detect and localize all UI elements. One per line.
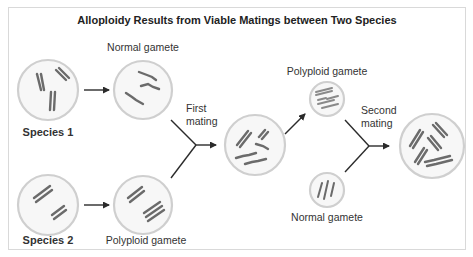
normal-gamete-cell-bottom — [310, 173, 344, 207]
arrow-icon — [285, 114, 305, 134]
polyploid-gamete-label-top: Polyploid gamete — [287, 65, 368, 77]
species-2-cell — [18, 175, 78, 235]
normal-gamete-label-top: Normal gamete — [107, 41, 179, 53]
alloploid-cell — [400, 114, 464, 178]
first-mating-label-line1: First — [186, 102, 206, 114]
normal-gamete-cell-top — [114, 61, 172, 119]
alloploidy-diagram: Alloploidy Results from Viable Matings b… — [0, 0, 473, 257]
normal-gamete-label-bottom: Normal gamete — [291, 211, 363, 223]
diagram-title: Alloploidy Results from Viable Matings b… — [77, 14, 396, 26]
first-mating-connector — [171, 120, 216, 178]
species-1-label: Species 1 — [23, 126, 74, 138]
hybrid-cell — [225, 115, 285, 175]
second-mating-label-line2: mating — [361, 117, 393, 129]
polyploid-gamete-label-bottom: Polyploid gamete — [106, 234, 187, 246]
first-mating-label-line2: mating — [186, 115, 218, 127]
species-1-cell — [18, 60, 78, 120]
species-2-label: Species 2 — [23, 234, 74, 246]
second-mating-label-line1: Second — [361, 104, 397, 116]
polyploid-gamete-cell-top — [310, 82, 344, 116]
polyploid-gamete-cell-bottom — [114, 176, 172, 234]
